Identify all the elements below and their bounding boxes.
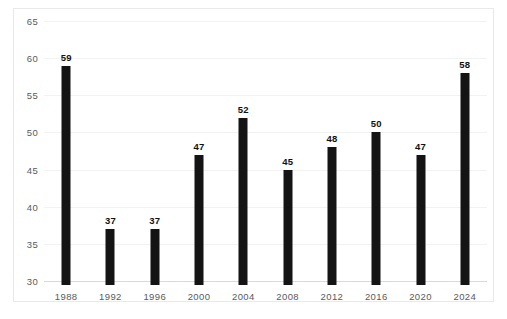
x-axis-tick-label: 2000 [188, 291, 211, 302]
bar-value-label: 59 [61, 52, 72, 63]
bar [239, 118, 248, 281]
x-axis-tickmark [195, 281, 204, 285]
x-axis-tickmark [239, 281, 248, 285]
x-axis-tick-label: 2020 [409, 291, 432, 302]
y-axis-tick-label: 35 [14, 238, 38, 249]
bar-value-label: 37 [105, 215, 116, 226]
y-axis-tick-label: 55 [14, 90, 38, 101]
x-axis-tick-label: 2008 [276, 291, 299, 302]
x-axis-tick-label: 1996 [143, 291, 166, 302]
y-axis-tick-label: 45 [14, 164, 38, 175]
x-axis-tickmark [150, 281, 159, 285]
bar [416, 155, 425, 281]
x-axis-tick-label: 2024 [453, 291, 476, 302]
x-axis-tickmark [460, 281, 469, 285]
bar [106, 229, 115, 281]
x-axis-tickmark [416, 281, 425, 285]
bar-value-label: 58 [459, 59, 470, 70]
bar-value-label: 48 [326, 133, 337, 144]
y-axis-tick-label: 30 [14, 276, 38, 287]
y-axis-tick-label: 65 [14, 16, 38, 27]
bar-value-label: 52 [238, 104, 249, 115]
bar-value-label: 47 [415, 141, 426, 152]
bar-value-label: 45 [282, 156, 293, 167]
bar [195, 155, 204, 281]
x-axis-tick-label: 1992 [99, 291, 122, 302]
gridline [44, 132, 487, 133]
bar [372, 132, 381, 281]
x-axis-tickmark [327, 281, 336, 285]
y-axis-tick-label: 60 [14, 53, 38, 64]
y-axis-tick-label: 50 [14, 127, 38, 138]
bar-value-label: 50 [371, 118, 382, 129]
bar [283, 170, 292, 281]
plot-area: 59373747524548504758 [44, 21, 487, 281]
gridline [44, 95, 487, 96]
x-axis-tick-label: 2004 [232, 291, 255, 302]
bar [62, 66, 71, 281]
bar [150, 229, 159, 281]
x-axis-tickmark [106, 281, 115, 285]
x-axis-tick-label: 1988 [55, 291, 78, 302]
bar-chart: 6560555045403530 59373747524548504758 19… [0, 0, 507, 319]
bar [327, 147, 336, 281]
x-axis-tick-label: 2016 [365, 291, 388, 302]
gridline [44, 58, 487, 59]
x-axis-tick-label: 2012 [321, 291, 344, 302]
gridline [44, 21, 487, 22]
bar-value-label: 47 [194, 141, 205, 152]
y-axis-tick-label: 40 [14, 201, 38, 212]
x-axis-tickmark [372, 281, 381, 285]
bar [460, 73, 469, 281]
bar-value-label: 37 [149, 215, 160, 226]
x-axis-tickmark [62, 281, 71, 285]
x-axis-tickmark [283, 281, 292, 285]
